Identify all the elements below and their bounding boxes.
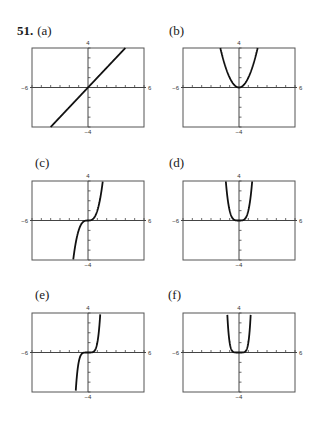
x-min-label: −6 bbox=[172, 350, 180, 356]
y-min-label: −4 bbox=[236, 129, 244, 135]
x-min-label: −6 bbox=[21, 350, 29, 356]
y-max-label: 4 bbox=[237, 173, 241, 179]
x-max-label: 6 bbox=[148, 85, 152, 91]
y-min-label: −4 bbox=[85, 129, 93, 135]
y-min-label: −4 bbox=[85, 262, 93, 268]
x-max-label: 6 bbox=[148, 350, 152, 356]
graph-f: −664−4 bbox=[172, 305, 303, 400]
y-min-label: −4 bbox=[85, 394, 93, 400]
graphs-canvas: −664−4−664−4−664−4−664−4−664−4−664−4 bbox=[0, 0, 316, 422]
x-min-label: −6 bbox=[21, 218, 29, 224]
graph-c: −664−4 bbox=[21, 173, 152, 268]
x-max-label: 6 bbox=[148, 218, 152, 224]
graph-b: −664−4 bbox=[172, 40, 303, 135]
y-max-label: 4 bbox=[237, 40, 241, 46]
graph-e: −664−4 bbox=[21, 305, 152, 400]
x-max-label: 6 bbox=[299, 85, 303, 91]
graph-a: −664−4 bbox=[21, 40, 152, 135]
x-max-label: 6 bbox=[299, 350, 303, 356]
graph-d: −664−4 bbox=[172, 173, 303, 268]
y-max-label: 4 bbox=[86, 40, 90, 46]
y-max-label: 4 bbox=[237, 305, 241, 311]
x-min-label: −6 bbox=[21, 85, 29, 91]
y-min-label: −4 bbox=[236, 394, 244, 400]
x-min-label: −6 bbox=[172, 218, 180, 224]
y-min-label: −4 bbox=[236, 262, 244, 268]
x-min-label: −6 bbox=[172, 85, 180, 91]
x-max-label: 6 bbox=[299, 218, 303, 224]
y-max-label: 4 bbox=[86, 305, 90, 311]
y-max-label: 4 bbox=[86, 173, 90, 179]
